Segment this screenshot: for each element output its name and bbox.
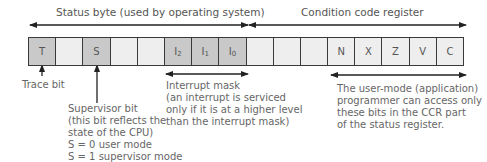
register-bit-cell: T	[29, 38, 56, 65]
register-bit-cell: V	[410, 38, 437, 65]
register-bit-cell: N	[328, 38, 355, 65]
note-line: of the status register.	[337, 119, 482, 131]
register-bit-cell	[138, 38, 165, 65]
ccr-header: Condition code register	[301, 6, 424, 18]
register-bit-cell	[56, 38, 83, 65]
note-line: programmer can access only	[337, 95, 482, 107]
note-line: only if it is at a higher level	[166, 104, 302, 116]
trace-bit-label: Trace bit	[22, 79, 65, 91]
note-line: The user-mode (application)	[337, 83, 482, 95]
register-bit-cell: I1	[192, 38, 219, 65]
note-line: S = 1 supervisor mode	[68, 151, 182, 162]
bit-label: N	[337, 46, 344, 57]
note-line: these bits in the CCR part	[337, 107, 482, 119]
bit-label: C	[446, 46, 453, 57]
note-line: S = 0 user mode	[68, 139, 182, 151]
register-bit-cell	[247, 38, 274, 65]
register-bit-cell: C	[437, 38, 464, 65]
bit-subscript: 1	[204, 50, 208, 58]
bit-subscript: 0	[232, 50, 236, 58]
register-bit-cell: S	[83, 38, 110, 65]
bit-subscript: 2	[177, 50, 181, 58]
note-line: (an interrupt is serviced	[166, 92, 302, 104]
register-bit-cell	[301, 38, 328, 65]
register-bit-cell: I0	[219, 38, 246, 65]
note-line: than the interrupt mask)	[166, 116, 302, 128]
register-bit-cell	[274, 38, 301, 65]
register-bit-cell: Z	[382, 38, 409, 65]
register-bit-cell: I2	[165, 38, 192, 65]
status-register-row: TSI2I1I0NXZVC	[28, 37, 464, 66]
status-byte-header: Status byte (used by operating system)	[56, 6, 265, 18]
user-mode-note: The user-mode (application) programmer c…	[337, 83, 482, 131]
bit-label: S	[93, 46, 99, 57]
register-bit-cell: X	[355, 38, 382, 65]
note-line: state of the CPU)	[68, 127, 182, 139]
bit-label: V	[419, 46, 426, 57]
register-bit-cell	[111, 38, 138, 65]
interrupt-mask-note: Interrupt mask (an interrupt is serviced…	[166, 80, 302, 128]
bit-label: X	[365, 46, 372, 57]
note-line: Interrupt mask	[166, 80, 302, 92]
bit-label: Z	[392, 46, 399, 57]
bit-label: T	[39, 46, 45, 57]
